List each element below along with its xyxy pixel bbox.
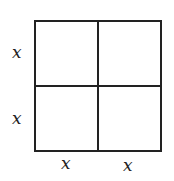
bottom-label-right: x [123,157,133,174]
left-label-top: x [12,44,22,61]
left-label-bottom: x [12,110,22,127]
outer-square [34,20,162,152]
horizontal-divider [36,85,160,87]
bottom-label-left: x [61,155,71,172]
